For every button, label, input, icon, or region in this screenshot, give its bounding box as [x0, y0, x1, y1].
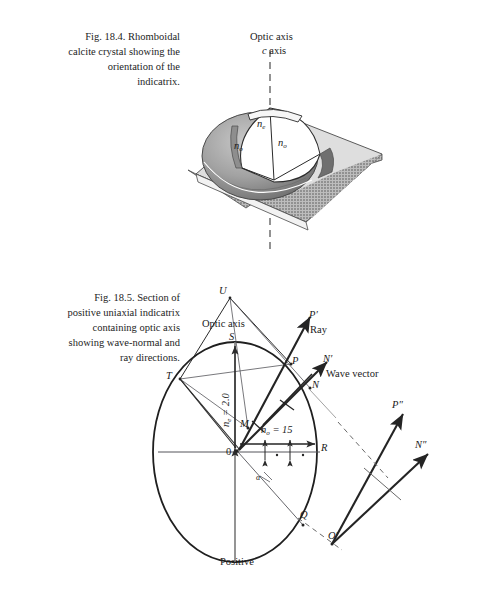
label-S: S: [229, 332, 234, 343]
point-U: [229, 297, 232, 300]
figure-2-caption: Fig. 18.5. Section of positive uniaxial …: [8, 291, 180, 366]
figure-2-indicatrix-section: U Optic axis S T P P′ Ray N N′ Wave vect…: [160, 282, 491, 592]
figure-1-crystal-diagram: Optic axis c axis ne no no: [186, 22, 486, 272]
caption-line: positive uniaxial indicatrix: [8, 306, 180, 321]
point-T: [179, 378, 182, 381]
label-n-e-value: ne = 2.0: [221, 393, 233, 427]
label-origin: 0: [226, 447, 231, 458]
label-N-prime: N′: [323, 354, 332, 365]
point-O: [235, 449, 239, 453]
label-positive: Positive: [220, 557, 254, 568]
caption-line: showing wave-normal and: [8, 336, 180, 351]
caption-line: containing optic axis: [8, 321, 180, 336]
label-N-double-prime: N″: [415, 440, 426, 451]
label-T: T: [166, 371, 172, 382]
label-P: P: [292, 356, 298, 367]
wave-normal-double-prime-arrow: [332, 454, 428, 544]
label-optic-axis: Optic axis: [202, 319, 245, 330]
optic-axis-label: Optic axis: [250, 32, 293, 43]
label-n-o-value: no = 15: [261, 425, 293, 437]
c-axis-label: c axis: [262, 46, 286, 57]
label-P-double-prime: P″: [392, 400, 403, 411]
pointer-from-N: [310, 390, 336, 418]
n-o-left-label: no: [234, 141, 243, 153]
label-wave-vector: Wave vector: [326, 369, 379, 380]
scale-dot-1: [276, 454, 278, 456]
ray-double-prime-arrow: [332, 414, 403, 544]
label-O-prime: O′: [328, 531, 338, 542]
label-M: M: [240, 419, 249, 430]
n-o-right-label: no: [278, 138, 287, 150]
figure-page: Fig. 18.4. Rhomboidal calcite crystal sh…: [0, 0, 491, 596]
label-Q: Q: [300, 510, 308, 521]
caption-line: indicatrix.: [8, 75, 180, 90]
label-alpha: α: [256, 474, 260, 482]
caption-line: Fig. 18.5. Section of: [8, 291, 180, 306]
label-R: R: [321, 443, 327, 454]
crystal-svg: [186, 22, 486, 272]
caption-line: orientation of the: [8, 60, 180, 75]
line-O-to-Q: [238, 452, 303, 525]
figure-1-caption: Fig. 18.4. Rhomboidal calcite crystal sh…: [8, 30, 180, 90]
line-U-to-T: [180, 298, 230, 379]
label-P-prime: P′: [309, 310, 318, 321]
dashed-wavefront-upper: [338, 422, 388, 478]
label-ray: Ray: [310, 325, 327, 336]
point-O-prime: [331, 543, 334, 546]
scale-dot-2: [302, 454, 304, 456]
caption-line: ray directions.: [8, 351, 180, 366]
label-N: N: [312, 380, 319, 391]
angle-alpha-marker: [260, 472, 272, 482]
point-Q: [302, 524, 305, 527]
label-U: U: [219, 286, 227, 297]
wavefront-tangent-upper: [263, 374, 312, 425]
n-e-label: ne: [257, 119, 265, 131]
caption-line: calcite crystal showing the: [8, 45, 180, 60]
caption-line: Fig. 18.4. Rhomboidal: [8, 30, 180, 45]
